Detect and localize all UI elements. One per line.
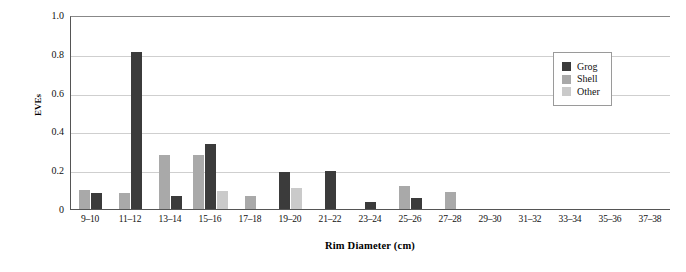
bar [205,144,216,209]
bar-group [271,17,311,209]
bar [159,155,170,209]
bar-groups [71,17,670,209]
y-tick-label: 1.0 [28,11,64,21]
x-tick-label: 9–10 [70,214,110,224]
bar-group [191,17,231,209]
bar-group [231,17,271,209]
x-tick-label: 31–32 [510,214,550,224]
x-tick-label: 17–18 [230,214,270,224]
bar [171,196,182,209]
x-tick-label: 13–14 [150,214,190,224]
plot-area [70,16,670,210]
y-tick-label: 0 [28,205,64,215]
bar [79,190,90,209]
legend-swatch-icon [562,87,571,96]
bar-group [510,17,550,209]
bar-group [351,17,391,209]
bar-group [391,17,431,209]
bar [217,191,228,209]
legend-item: Other [562,87,600,97]
x-tick-label: 11–12 [110,214,150,224]
x-tick-label: 27–28 [430,214,470,224]
bar-group [470,17,510,209]
x-axis-title: Rim Diameter (cm) [70,240,670,251]
bar-group [71,17,111,209]
x-tick-label: 15–16 [190,214,230,224]
bar-group [111,17,151,209]
legend-item: Shell [562,74,600,84]
bar [445,192,456,209]
bar [279,172,290,209]
bar-group [630,17,670,209]
y-tick-label: 0.2 [28,166,64,176]
y-tick-label: 0.6 [28,89,64,99]
bar [91,193,102,209]
bar-group [151,17,191,209]
legend: GrogShellOther [553,52,612,106]
bar-group [550,17,590,209]
x-tick-label: 23–24 [350,214,390,224]
legend-label: Shell [577,74,598,84]
bar-chart-figure: EVEs 00.20.40.60.81.0 9–1011–1213–1415–1… [0,0,686,272]
bar [131,52,142,209]
x-tick-label: 35–36 [590,214,630,224]
legend-label: Grog [577,62,598,72]
x-tick-label: 37–38 [630,214,670,224]
bar [193,155,204,209]
x-tick-label: 19–20 [270,214,310,224]
x-tick-label: 25–26 [390,214,430,224]
bar [291,188,302,209]
y-tick-label: 0.8 [28,50,64,60]
bar [119,193,130,209]
bar [399,186,410,209]
legend-swatch-icon [562,75,571,84]
legend-swatch-icon [562,62,571,71]
bar [325,171,336,209]
x-axis-tick-labels: 9–1011–1213–1415–1617–1819–2021–2223–242… [70,214,670,224]
bar-group [311,17,351,209]
bar [245,196,256,209]
x-tick-label: 29–30 [470,214,510,224]
bar [365,202,376,209]
x-tick-label: 33–34 [550,214,590,224]
bar [411,198,422,209]
x-tick-label: 21–22 [310,214,350,224]
bar-group [430,17,470,209]
legend-label: Other [577,87,600,97]
bar-group [590,17,630,209]
legend-item: Grog [562,62,600,72]
y-tick-label: 0.4 [28,127,64,137]
